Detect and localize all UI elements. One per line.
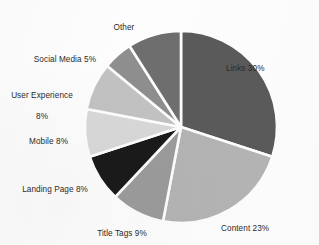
slice-label-other-text: Other: [114, 23, 135, 32]
slice-label-social-media: Social Media 5%: [0, 44, 96, 65]
pie-chart-figure: Links 30% Content 23% Title Tags 9% Land…: [0, 0, 319, 245]
slice-label-user-experience-line2: 8%: [36, 112, 48, 121]
slice-label-links-text: Links 30%: [226, 64, 265, 73]
slice-label-user-experience-line1: User Experience: [11, 91, 73, 100]
slice-label-title-tags: Title Tags 9%: [67, 218, 177, 239]
slice-label-mobile-text: Mobile 8%: [29, 137, 68, 146]
slice-label-other: Other: [89, 12, 159, 33]
slice-label-title-tags-text: Title Tags 9%: [97, 229, 147, 238]
slice-label-social-media-text: Social Media 5%: [34, 55, 96, 64]
slice-label-landing-page-text: Landing Page 8%: [22, 185, 88, 194]
slice-label-user-experience: User Experience 8%: [6, 80, 78, 122]
slice-label-content: Content 23%: [221, 213, 269, 234]
slice-label-content-text: Content 23%: [221, 224, 269, 233]
slice-label-landing-page: Landing Page 8%: [0, 174, 88, 195]
pie-chart-canvas: [0, 0, 319, 245]
pie-chart-svg: [0, 0, 319, 245]
slice-label-mobile: Mobile 8%: [0, 126, 68, 147]
slice-label-links: Links 30%: [226, 53, 265, 74]
